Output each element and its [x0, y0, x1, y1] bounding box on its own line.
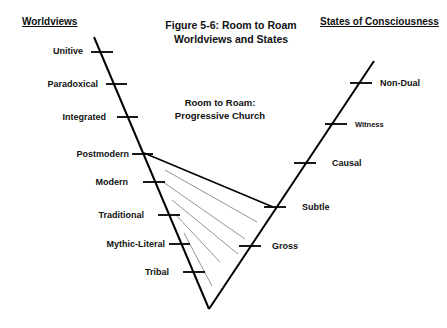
worldview-label-paradoxical: Paradoxical	[47, 79, 98, 90]
worldview-label-mythic-literal: Mythic-Literal	[106, 239, 165, 250]
state-label-gross: Gross	[272, 241, 298, 252]
worldviews-header: Worldviews	[22, 16, 77, 27]
state-label-causal: Causal	[332, 158, 362, 169]
states-header: States of Consciousness	[320, 16, 439, 27]
hatch-line	[176, 215, 220, 262]
room-to-roam-label: Room to Roam: Progressive Church	[165, 96, 275, 122]
state-label-non-dual: Non-Dual	[380, 78, 420, 89]
room-to-roam-hatching	[163, 170, 257, 286]
worldview-label-integrated: Integrated	[62, 112, 106, 123]
figure-title-line2: Worldviews and States	[156, 32, 306, 46]
figure-title-line1: Figure 5-6: Room to Roam	[156, 18, 306, 32]
worldview-label-unitive: Unitive	[53, 46, 83, 57]
figure-title: Figure 5-6: Room to Roam Worldviews and …	[156, 18, 306, 46]
state-label-subtle: Subtle	[302, 202, 330, 213]
room-to-roam-diagram: Worldviews States of Consciousness Figur…	[0, 0, 447, 328]
worldview-label-traditional: Traditional	[98, 210, 144, 221]
worldview-label-modern: Modern	[96, 177, 129, 188]
state-label-witness: Witness	[355, 119, 384, 130]
worldview-label-postmodern: Postmodern	[76, 149, 129, 160]
room-to-roam-label-line2: Progressive Church	[165, 109, 275, 122]
worldview-label-tribal: Tribal	[145, 267, 169, 278]
room-to-roam-label-line1: Room to Roam:	[165, 96, 275, 109]
